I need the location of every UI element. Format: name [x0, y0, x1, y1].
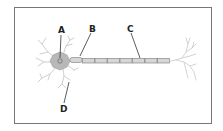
label-a: A: [58, 25, 65, 35]
axon-terminals: [170, 38, 196, 80]
neuron-diagram: A B C D: [0, 0, 223, 131]
label-b: B: [89, 24, 96, 34]
label-c: C: [127, 24, 134, 34]
axon: [70, 58, 170, 64]
label-d: D: [60, 104, 67, 114]
